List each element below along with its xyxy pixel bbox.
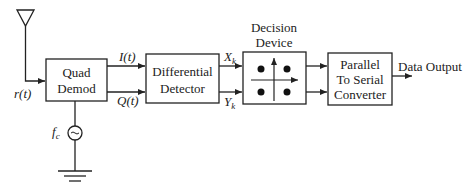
i-signal-label: I(t)	[118, 49, 136, 64]
decision-device-label-1: Decision	[251, 20, 298, 35]
antenna-icon	[17, 10, 34, 26]
differential-detector-block: Differential Detector	[146, 54, 219, 103]
quad-demod-label-2: Demod	[57, 81, 96, 96]
carrier-label: fc	[52, 124, 60, 141]
input-signal-label: r(t)	[14, 86, 31, 101]
block-diagram: r(t) Quad Demod I(t) Q(t) fc Differentia…	[0, 0, 470, 193]
p2s-label-2: To Serial	[336, 72, 383, 87]
q-signal-label: Q(t)	[117, 93, 139, 108]
p2s-label-1: Parallel	[340, 57, 380, 72]
decision-device-block	[243, 52, 306, 104]
ground-icon	[58, 171, 92, 181]
xk-label: Xk	[223, 49, 237, 66]
p2s-label-3: Converter	[334, 87, 387, 102]
quad-demod-block: Quad Demod	[46, 59, 107, 101]
yk-label: Yk	[224, 94, 236, 111]
parallel-to-serial-block: Parallel To Serial Converter	[328, 53, 392, 105]
oscillator-icon	[68, 126, 82, 140]
data-output-label: Data Output	[398, 59, 462, 74]
diff-detector-label-2: Detector	[160, 81, 205, 96]
quad-demod-label-1: Quad	[62, 65, 91, 80]
input-wire	[26, 26, 46, 81]
decision-device-label-2: Device	[256, 35, 293, 50]
diff-detector-label-1: Differential	[152, 64, 213, 79]
